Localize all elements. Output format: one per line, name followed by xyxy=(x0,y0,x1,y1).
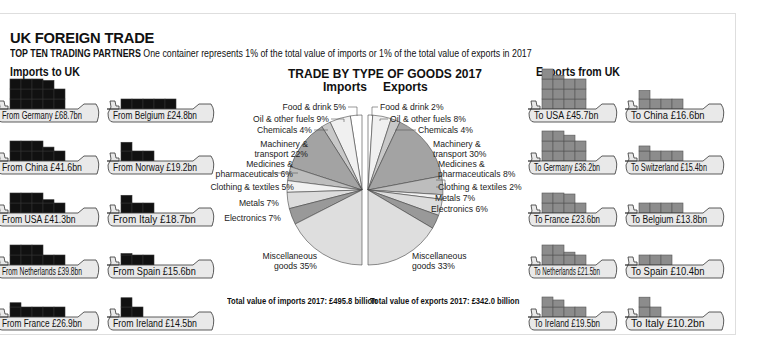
exports-total: Total value of exports 2017: £342.0 bill… xyxy=(370,295,519,306)
pie-label: Medicines &pharmaceuticals 8% xyxy=(438,159,516,179)
pie-label: Oil & other fuels 9% xyxy=(253,114,329,124)
pie-label: Machinery &transport 22% xyxy=(254,139,308,159)
pie-label: Food & drink 2% xyxy=(380,102,444,112)
pie-label: Chemicals 4% xyxy=(257,125,312,135)
pie-label: Machinery &transport 30% xyxy=(433,139,487,159)
pie-label: Clothing & textiles 2% xyxy=(438,182,522,192)
pie-label: Clothing & textiles 5% xyxy=(210,182,294,192)
pie-label: Miscellaneousgoods 35% xyxy=(263,251,318,271)
pie-label: Electronics 7% xyxy=(224,213,281,223)
pie-label: Chemicals 4% xyxy=(418,125,473,135)
pie-label: Electronics 6% xyxy=(431,204,488,214)
pie-label: Metals 7% xyxy=(239,198,279,208)
imports-total: Total value of imports 2017: £495.8 bill… xyxy=(227,295,377,306)
goods-pie-chart: Food & drink 5%Oil & other fuels 9%Chemi… xyxy=(0,0,757,344)
pie-label: Oil & other fuels 8% xyxy=(390,114,466,124)
pie-label: Miscellaneousgoods 33% xyxy=(412,251,466,271)
pie-label: Metals 7% xyxy=(435,193,475,203)
pie-label: Food & drink 5% xyxy=(282,102,346,112)
pie-label: Medicines &pharmaceuticals 6% xyxy=(216,159,294,179)
imports-half-pie: Food & drink 5%Oil & other fuels 9%Chemi… xyxy=(210,102,362,271)
